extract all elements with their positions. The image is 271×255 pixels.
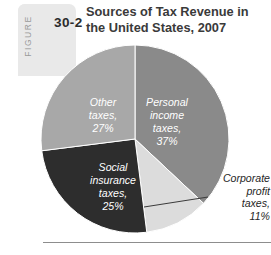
pie-label-line: taxes,: [89, 109, 117, 121]
pie-label-line: taxes,: [99, 187, 127, 199]
pie-label-line: Other: [90, 96, 117, 108]
pie-label-corporate-profit-taxes: Corporate profit taxes, 11%: [208, 172, 270, 222]
figure-number-label: 30-2: [54, 15, 83, 30]
callout-leader-line: [144, 195, 208, 209]
bottom-divider: [43, 242, 271, 243]
pie-label-line: 27%: [91, 122, 113, 134]
pie-label-line: income: [150, 109, 184, 121]
pie-label-line: 25%: [101, 200, 123, 212]
pie-label-line: Corporate: [208, 172, 270, 185]
pie-label-line: Social: [99, 161, 128, 173]
pie-slice-other-taxes: [41, 45, 135, 151]
pie-label-line: taxes,: [208, 197, 270, 210]
pie-slice-social-insurance-taxes: [42, 139, 147, 233]
pie-label-other-taxes: Other taxes, 27%: [89, 96, 117, 134]
figure-word-label: FIGURE: [23, 7, 33, 65]
pie-label-line: Personal: [146, 96, 188, 108]
pie-label-line: 37%: [156, 135, 177, 147]
figure-title: Sources of Tax Revenue in the United Sta…: [86, 4, 266, 36]
pie-label-line: 11%: [208, 210, 270, 223]
pie-label-line: taxes,: [153, 122, 181, 134]
pie-label-line: profit: [208, 185, 270, 198]
pie-label-line: insurance: [90, 174, 136, 186]
